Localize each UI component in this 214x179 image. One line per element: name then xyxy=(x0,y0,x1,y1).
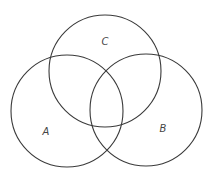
set-b-label: B xyxy=(160,123,167,134)
set-a-circle xyxy=(11,55,123,167)
set-c-label: C xyxy=(102,36,109,47)
set-b-circle xyxy=(90,54,202,166)
set-c-circle xyxy=(49,15,161,127)
set-a-label: A xyxy=(42,126,50,137)
venn-diagram: C A B xyxy=(0,0,214,179)
